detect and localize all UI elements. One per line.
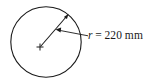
radius-value: 220 [104, 29, 122, 41]
radius-arrow [41, 14, 69, 47]
radius-label: r=220mm [88, 30, 143, 42]
equals-sign: = [95, 29, 102, 41]
radius-unit: mm [125, 29, 143, 41]
figure-container: r=220mm [0, 0, 149, 83]
leader-arrow [56, 28, 88, 36]
circle-radius-diagram [0, 0, 149, 83]
circle-outline [11, 7, 81, 77]
radius-symbol: r [88, 29, 93, 41]
